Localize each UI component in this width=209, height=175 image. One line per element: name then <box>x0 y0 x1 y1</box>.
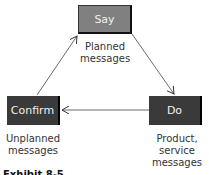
confirm-caption-line2: messages <box>2 145 64 157</box>
say-node-label: Say <box>94 13 114 26</box>
do-caption-line3: messages <box>148 157 206 169</box>
say-caption: Planned messages <box>80 41 130 65</box>
do-caption: Product, service messages <box>148 133 206 169</box>
exhibit-caption: Exhibit 8-5 <box>3 169 64 175</box>
do-node: Do <box>149 96 202 125</box>
do-node-label: Do <box>167 104 182 117</box>
say-caption-line2: messages <box>80 53 130 65</box>
arrow-say-to-do <box>132 34 174 94</box>
confirm-node-label: Confirm <box>11 104 54 117</box>
do-caption-line1: Product, <box>148 133 206 145</box>
say-node: Say <box>78 5 132 34</box>
say-caption-line1: Planned <box>80 41 130 53</box>
confirm-node: Confirm <box>7 96 60 125</box>
confirm-caption-line1: Unplanned <box>2 133 64 145</box>
confirm-caption: Unplanned messages <box>2 133 64 157</box>
arrow-confirm-to-say <box>37 36 77 95</box>
do-caption-line2: service <box>148 145 206 157</box>
